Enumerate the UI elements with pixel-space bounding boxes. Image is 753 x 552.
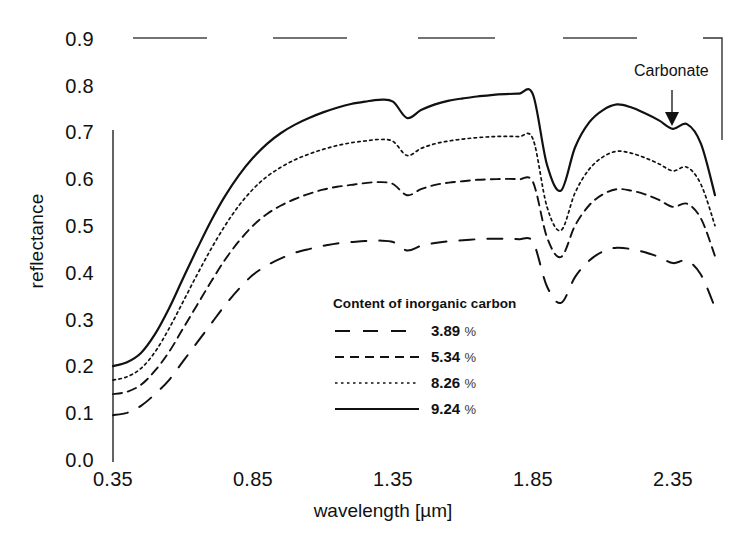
legend-item: 5.34 %	[333, 348, 563, 370]
legend-item-unit: %	[464, 350, 476, 365]
arrow-head	[665, 112, 679, 126]
legend-item: 3.89 %	[333, 322, 563, 344]
legend-item-label: 5.34 %	[431, 348, 476, 365]
legend-item: 8.26 %	[333, 374, 563, 396]
legend-item-unit: %	[464, 324, 476, 339]
carbonate-bracket	[703, 38, 722, 140]
legend-item-label: 9.24 %	[431, 400, 476, 417]
bracket-shape	[703, 38, 722, 140]
legend-item: 9.24 %	[333, 400, 563, 422]
legend-item-label: 3.89 %	[431, 322, 476, 339]
legend-item-unit: %	[464, 376, 476, 391]
legend-item-unit: %	[464, 402, 476, 417]
reflectance-spectra-figure: reflectance 0.00.10.20.30.40.50.60.70.80…	[0, 0, 753, 552]
legend-title: Content of inorganic carbon	[333, 296, 516, 311]
plot-area	[0, 0, 753, 552]
carbonate-arrow	[665, 90, 679, 126]
legend-item-label: 8.26 %	[431, 374, 476, 391]
carbonate-annotation-label: Carbonate	[634, 62, 709, 80]
